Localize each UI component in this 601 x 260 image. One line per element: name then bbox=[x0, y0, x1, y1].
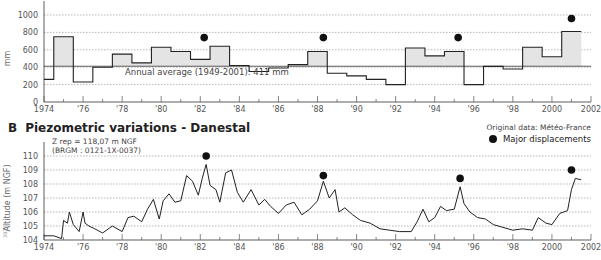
above-average-fill bbox=[425, 56, 445, 66]
dot-marker-icon bbox=[489, 135, 497, 143]
x-tick-label: '88 bbox=[311, 243, 323, 252]
x-tick-label: 2000 bbox=[542, 105, 562, 114]
x-tick-label: '84 bbox=[233, 105, 245, 114]
y-tick-label: 109 bbox=[23, 166, 38, 175]
above-average-fill bbox=[405, 48, 425, 66]
above-average-fill bbox=[151, 47, 171, 66]
x-tick-label: '90 bbox=[350, 243, 362, 252]
x-tick-label: 1974 bbox=[34, 105, 54, 114]
figure-code: 3936 bbox=[2, 225, 8, 238]
x-tick-label: '76 bbox=[77, 105, 89, 114]
y-tick-label: 110 bbox=[23, 152, 38, 161]
x-tick-label: '92 bbox=[389, 105, 401, 114]
above-average-fill bbox=[171, 52, 191, 67]
above-average-fill bbox=[112, 54, 132, 66]
displacement-marker bbox=[202, 152, 210, 160]
piezometric-line bbox=[44, 164, 581, 238]
x-tick-label: '94 bbox=[429, 105, 441, 114]
above-average-fill bbox=[308, 52, 328, 67]
source-note: Original data: Météo-France bbox=[486, 123, 591, 132]
y-tick-label: 106 bbox=[23, 208, 38, 217]
displacement-marker bbox=[320, 34, 328, 42]
above-average-fill bbox=[523, 47, 543, 66]
reference-elevation-note: Z rep = 118,07 m NGF (BRGM : 0121-1X-003… bbox=[52, 137, 141, 155]
x-tick-label: '78 bbox=[116, 243, 128, 252]
displacement-marker bbox=[568, 15, 576, 23]
y-tick-label: 600 bbox=[23, 46, 38, 55]
y-tick-label: 108 bbox=[23, 180, 38, 189]
y-tick-label: 800 bbox=[23, 28, 38, 37]
legend-label: Major displacements bbox=[503, 134, 591, 144]
y-tick-label: 400 bbox=[23, 63, 38, 72]
x-tick-label: '96 bbox=[468, 105, 480, 114]
x-tick-label: '82 bbox=[194, 243, 206, 252]
x-tick-label: '82 bbox=[194, 105, 206, 114]
x-tick-label: '98 bbox=[507, 243, 519, 252]
x-tick-label: '80 bbox=[155, 243, 167, 252]
legend: Major displacements bbox=[489, 134, 591, 144]
y-axis-title: Altitude (m NGF) bbox=[3, 164, 12, 231]
x-tick-label: 1974 bbox=[34, 243, 54, 252]
x-tick-label: '76 bbox=[77, 243, 89, 252]
x-tick-label: '92 bbox=[389, 243, 401, 252]
displacement-marker bbox=[456, 175, 464, 183]
displacement-marker bbox=[320, 172, 328, 180]
x-tick-label: '88 bbox=[311, 105, 323, 114]
displacement-marker bbox=[200, 34, 208, 42]
x-tick-label: '80 bbox=[155, 105, 167, 114]
panel-letter: B bbox=[8, 121, 17, 135]
x-tick-label: '94 bbox=[429, 243, 441, 252]
zrep-line-1: Z rep = 118,07 m NGF bbox=[52, 137, 141, 146]
x-tick-label: '98 bbox=[507, 105, 519, 114]
x-tick-label: '86 bbox=[272, 105, 284, 114]
x-tick-label: '90 bbox=[350, 105, 362, 114]
x-tick-label: '96 bbox=[468, 243, 480, 252]
x-tick-label: '86 bbox=[272, 243, 284, 252]
y-axis-title: mm bbox=[3, 51, 12, 67]
above-average-fill bbox=[54, 37, 74, 66]
above-average-fill bbox=[542, 57, 562, 66]
rainfall-chart: 020040060080010001974'76'78'80'82'84'86'… bbox=[3, 1, 601, 114]
panel-title-text: Piezometric variations - Danestal bbox=[25, 121, 250, 135]
y-tick-label: 1000 bbox=[18, 11, 38, 20]
x-tick-label: 2000 bbox=[542, 243, 562, 252]
zrep-line-2: (BRGM : 0121-1X-0037) bbox=[52, 146, 141, 155]
above-average-fill bbox=[210, 46, 230, 66]
x-tick-label: '84 bbox=[233, 243, 245, 252]
y-tick-label: 105 bbox=[23, 222, 38, 231]
displacement-marker bbox=[454, 34, 462, 42]
x-tick-label: '78 bbox=[116, 105, 128, 114]
x-tick-label: 2002 bbox=[581, 105, 601, 114]
above-average-fill bbox=[562, 32, 582, 67]
above-average-fill bbox=[191, 59, 211, 66]
displacement-marker bbox=[568, 166, 576, 174]
average-label: Annual average (1949-2001): 411 mm bbox=[125, 67, 289, 77]
piezometric-chart: 1041051061071081091101974'76'78'80'82'84… bbox=[3, 142, 601, 252]
panel-b-title: BPiezometric variations - Danestal bbox=[8, 121, 250, 135]
above-average-fill bbox=[444, 52, 464, 67]
y-tick-label: 107 bbox=[23, 194, 38, 203]
x-tick-label: 2002 bbox=[581, 243, 601, 252]
y-tick-label: 200 bbox=[23, 81, 38, 90]
